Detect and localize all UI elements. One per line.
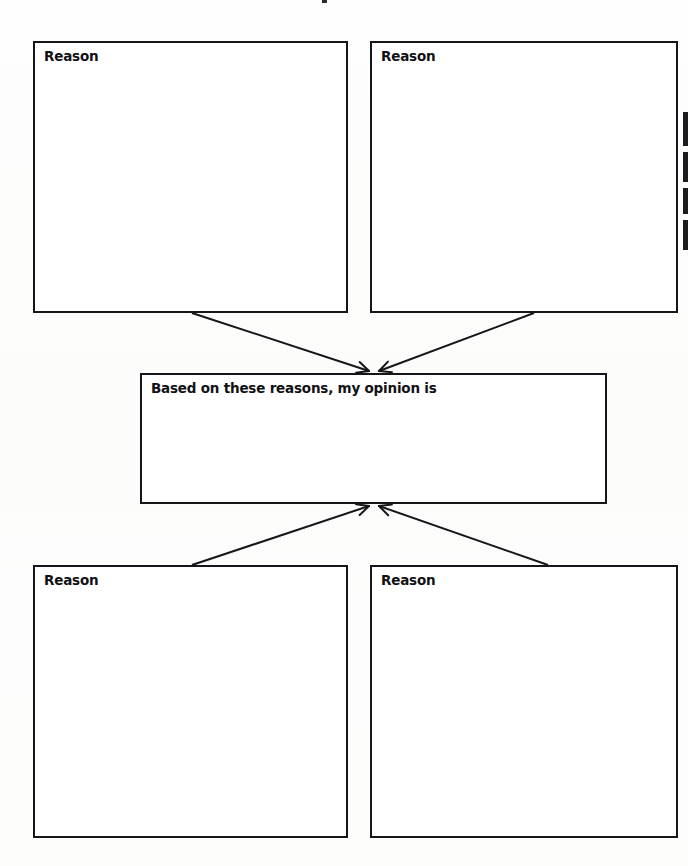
reason-box-bottom-right[interactable]: Reason xyxy=(370,565,678,838)
reason-box-top-right[interactable]: Reason xyxy=(370,41,678,313)
reason-box-bottom-left[interactable]: Reason xyxy=(33,565,348,838)
arrow-bottom-left-to-center-head xyxy=(356,504,369,506)
arrow-bottom-right-to-center-head xyxy=(379,505,392,506)
arrow-top-right-to-center-head xyxy=(379,362,388,371)
reason-box-top-left-label: Reason xyxy=(44,48,98,64)
cropped-title-descender-mark xyxy=(322,0,327,3)
arrow-top-right-to-center-head xyxy=(379,371,392,372)
binding-mark-4 xyxy=(683,220,688,250)
arrow-bottom-left-to-center xyxy=(192,506,369,565)
opinion-box-center[interactable]: Based on these reasons, my opinion is xyxy=(140,373,607,504)
opinion-box-center-label: Based on these reasons, my opinion is xyxy=(151,380,437,396)
reason-box-top-left[interactable]: Reason xyxy=(33,41,348,313)
binding-mark-3 xyxy=(683,188,688,214)
arrow-top-left-to-center xyxy=(192,313,369,371)
binding-mark-2 xyxy=(683,152,688,182)
arrow-bottom-right-to-center xyxy=(379,506,548,565)
reason-box-bottom-right-label: Reason xyxy=(381,572,435,588)
reason-box-top-right-label: Reason xyxy=(381,48,435,64)
reason-box-bottom-left-label: Reason xyxy=(44,572,98,588)
binding-mark-1 xyxy=(683,112,688,146)
arrow-bottom-left-to-center-head xyxy=(360,506,369,515)
arrow-bottom-right-to-center-head xyxy=(379,506,388,515)
arrow-top-right-to-center xyxy=(379,313,534,371)
arrow-top-left-to-center-head xyxy=(360,362,369,371)
worksheet-page: Reason Reason Based on these reasons, my… xyxy=(0,0,688,866)
